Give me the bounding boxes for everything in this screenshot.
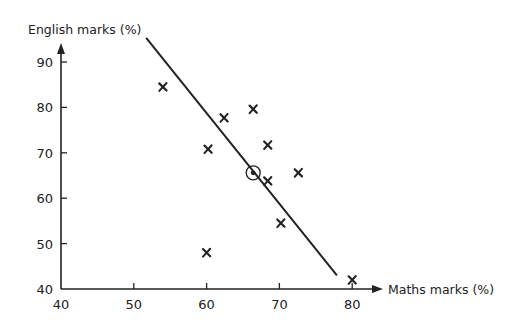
x-marker-icon xyxy=(295,169,302,177)
x-marker-icon xyxy=(203,249,210,257)
x-marker-icon xyxy=(250,105,257,113)
x-tick-label: 60 xyxy=(198,297,215,312)
x-marker-icon xyxy=(204,145,211,153)
y-ticks: 405060708090 xyxy=(36,55,67,297)
x-marker-icon xyxy=(264,177,271,185)
x-ticks: 4050607080 xyxy=(53,283,361,312)
y-tick-label: 90 xyxy=(36,55,53,70)
line-of-best-fit xyxy=(146,38,337,275)
y-axis-arrow-icon xyxy=(57,43,65,54)
x-marker-icon xyxy=(220,114,227,122)
y-tick-label: 40 xyxy=(36,282,53,297)
y-tick-label: 80 xyxy=(36,100,53,115)
mean-dot-icon xyxy=(251,170,256,175)
axes xyxy=(57,43,383,293)
scatter-chart: 405060708090 4050607080 English marks (%… xyxy=(0,0,510,330)
x-axis-label: Maths marks (%) xyxy=(388,282,494,297)
x-marker-icon xyxy=(159,83,166,91)
data-points xyxy=(159,83,355,284)
x-tick-label: 70 xyxy=(271,297,288,312)
x-tick-label: 40 xyxy=(53,297,70,312)
x-marker-icon xyxy=(277,219,284,227)
x-tick-label: 80 xyxy=(344,297,361,312)
x-axis-arrow-icon xyxy=(372,285,383,293)
x-marker-icon xyxy=(264,141,271,149)
y-tick-label: 50 xyxy=(36,237,53,252)
y-axis-label: English marks (%) xyxy=(28,22,141,37)
x-tick-label: 50 xyxy=(126,297,143,312)
y-tick-label: 70 xyxy=(36,146,53,161)
x-marker-icon xyxy=(349,276,356,284)
mean-point-marker xyxy=(246,166,260,180)
y-tick-label: 60 xyxy=(36,191,53,206)
